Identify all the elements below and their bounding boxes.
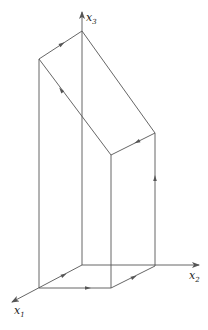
arrow-icon bbox=[85, 286, 91, 290]
axes bbox=[12, 12, 199, 302]
direction-arrows bbox=[58, 41, 157, 290]
arrow-icon bbox=[59, 41, 66, 47]
diagram-canvas: x1 x2 x3 bbox=[0, 0, 208, 330]
arrow-icon bbox=[153, 175, 157, 181]
arrow-icon bbox=[134, 139, 141, 145]
axis-label-x1: x1 bbox=[14, 304, 25, 319]
axis-x1 bbox=[12, 265, 82, 302]
arrow-icon bbox=[58, 87, 64, 94]
box-edges bbox=[39, 31, 155, 288]
edge-r-f bbox=[111, 133, 155, 155]
edge-p-r bbox=[82, 31, 155, 133]
axis-label-x2: x2 bbox=[189, 269, 200, 284]
axis-label-x3: x3 bbox=[86, 11, 97, 26]
edge-f-l bbox=[39, 59, 111, 155]
